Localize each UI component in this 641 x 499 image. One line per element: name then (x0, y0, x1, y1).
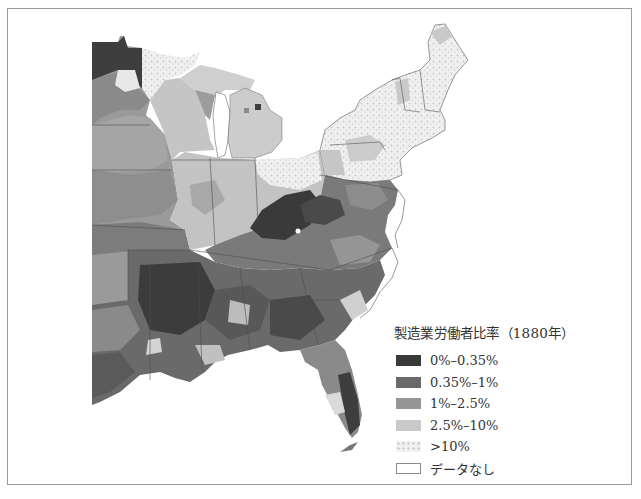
map-michigan (228, 88, 282, 158)
lake-michigan (213, 92, 230, 158)
chesapeake-shore (395, 190, 405, 248)
map-florida (300, 340, 362, 452)
legend-swatch-empty (396, 463, 421, 474)
legend-label: 0%–0.35% (430, 353, 498, 368)
legend-item-0-0.35: 0%–0.35% (392, 350, 632, 372)
legend-item-no-data: データなし (392, 458, 632, 480)
map-legend: 製造業労働者比率（1880年） 0%–0.35% 0.35%–1% 1%–2.5… (392, 322, 632, 479)
map-northeast (320, 24, 468, 182)
legend-item-2.5-10: 2.5%–10% (392, 415, 632, 437)
legend-swatch-light (396, 420, 421, 431)
legend-swatch-darkest (396, 355, 421, 366)
legend-swatch-medium (396, 398, 421, 409)
legend-label: >10% (430, 439, 470, 454)
legend-item-0.35-1: 0.35%–1% (392, 372, 632, 394)
legend-label: 1%–2.5% (430, 396, 490, 411)
legend-swatch-dark (396, 377, 421, 388)
legend-item-1-2.5: 1%–2.5% (392, 393, 632, 415)
legend-label: 0.35%–1% (430, 375, 498, 390)
legend-swatch-speckled (396, 441, 421, 452)
legend-item-over-10: >10% (392, 436, 632, 458)
legend-label: 2.5%–10% (430, 418, 498, 433)
legend-label: データなし (430, 459, 495, 478)
legend-title: 製造業労働者比率（1880年） (394, 322, 632, 342)
